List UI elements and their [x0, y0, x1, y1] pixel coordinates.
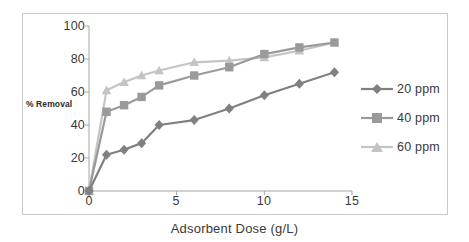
- triangle-marker-icon: [360, 140, 394, 154]
- legend-label: 40 ppm: [397, 111, 440, 125]
- y-tick-label: 20: [71, 151, 85, 165]
- legend-label: 60 ppm: [397, 140, 440, 154]
- data-point-square: [102, 108, 110, 116]
- data-point-square: [295, 43, 303, 51]
- legend-item-60ppm[interactable]: 60 ppm: [360, 140, 460, 154]
- x-axis-title: Adsorbent Dose (g/L): [0, 221, 469, 236]
- y-axis-tick-labels: 100 80 60 40 20 0: [22, 13, 85, 215]
- legend-item-20ppm[interactable]: 20 ppm: [360, 82, 460, 96]
- series-20-ppm: [84, 67, 339, 196]
- plot-svg: [89, 26, 352, 191]
- chart-legend: 20 ppm 40 ppm 60 ppm: [360, 82, 460, 154]
- x-axis-tick-labels: 0 5 10 15: [0, 194, 469, 214]
- series-line: [89, 43, 334, 192]
- data-point-diamond: [119, 145, 128, 155]
- y-tick-label: 80: [71, 52, 85, 66]
- y-tick-label: 40: [71, 118, 85, 132]
- series-line: [89, 43, 334, 192]
- diamond-marker-icon: [360, 82, 394, 96]
- legend-item-40ppm[interactable]: 40 ppm: [360, 111, 460, 125]
- y-tick-label: 60: [71, 85, 85, 99]
- data-point-diamond: [330, 67, 339, 77]
- data-point-diamond: [190, 115, 199, 125]
- data-point-square: [155, 81, 163, 89]
- y-axis-title: % Removal: [26, 99, 72, 109]
- x-tick-label: 10: [257, 194, 271, 208]
- data-point-square: [260, 50, 268, 58]
- data-point-square: [225, 63, 233, 71]
- data-point-square: [137, 93, 145, 101]
- data-point-square: [120, 101, 128, 109]
- x-tick-label: 0: [85, 194, 92, 208]
- data-point-diamond: [225, 104, 234, 114]
- series-60-ppm: [84, 38, 339, 195]
- plot-area: [89, 26, 352, 191]
- series-line: [89, 72, 334, 191]
- chart-screenshot: 100 80 60 40 20 0 % Removal 0 5 10 15 Ad…: [0, 0, 469, 242]
- square-marker-icon: [360, 111, 394, 125]
- data-point-square: [330, 38, 338, 46]
- x-tick-label: 15: [345, 194, 359, 208]
- legend-label: 20 ppm: [397, 82, 440, 96]
- x-tick-label: 5: [172, 194, 179, 208]
- y-tick-label: 100: [64, 19, 85, 33]
- data-point-diamond: [260, 90, 269, 100]
- data-point-diamond: [295, 79, 304, 89]
- data-point-diamond: [102, 150, 111, 160]
- data-point-square: [190, 71, 198, 79]
